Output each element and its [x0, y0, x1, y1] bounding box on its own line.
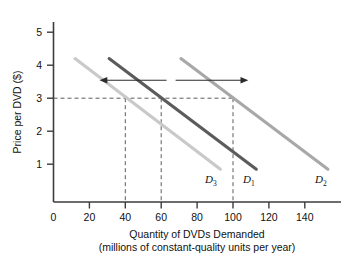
demand-curve-d1	[109, 59, 256, 170]
curve-labels-group: D3 D1 D2	[204, 173, 327, 188]
demand-curve-chart: 5 4 3 2 1 0 20 40 60 80 100 120 140	[0, 0, 349, 257]
x-tick-label-80: 80	[191, 211, 203, 223]
x-tick-label-40: 40	[119, 211, 131, 223]
x-axis-subtitle: (millions of constant-quality units per …	[99, 241, 296, 253]
annotation-arrows-group	[100, 77, 249, 84]
demand-curve-d3	[75, 59, 220, 170]
y-tick-label-5: 5	[36, 26, 42, 38]
y-tick-label-4: 4	[36, 59, 42, 71]
y-tick-marks	[47, 32, 54, 164]
y-tick-labels: 5 4 3 2 1	[36, 26, 42, 170]
reference-lines-group	[54, 98, 234, 202]
curve-label-d2: D2	[314, 173, 327, 188]
axes-group	[54, 22, 342, 202]
curve-label-d1: D1	[242, 173, 255, 188]
x-tick-label-60: 60	[155, 211, 167, 223]
x-tick-label-20: 20	[84, 211, 96, 223]
arrow-head-right	[241, 77, 249, 84]
demand-curves-group	[75, 59, 328, 170]
y-tick-label-1: 1	[36, 158, 42, 170]
y-axis-title: Price per DVD ($)	[11, 71, 23, 154]
x-tick-label-140: 140	[296, 211, 314, 223]
x-axis-title: Quantity of DVDs Demanded	[129, 228, 265, 240]
x-tick-marks	[89, 202, 304, 209]
x-tick-label-100: 100	[224, 211, 242, 223]
x-tick-labels: 0 20 40 60 80 100 120 140	[51, 211, 314, 223]
y-tick-label-2: 2	[36, 125, 42, 137]
chart-canvas: 5 4 3 2 1 0 20 40 60 80 100 120 140	[0, 0, 349, 257]
y-tick-label-3: 3	[36, 92, 42, 104]
curve-label-d3: D3	[204, 173, 217, 188]
x-tick-label-0: 0	[51, 211, 57, 223]
x-tick-label-120: 120	[260, 211, 278, 223]
demand-curve-d2	[181, 59, 328, 170]
